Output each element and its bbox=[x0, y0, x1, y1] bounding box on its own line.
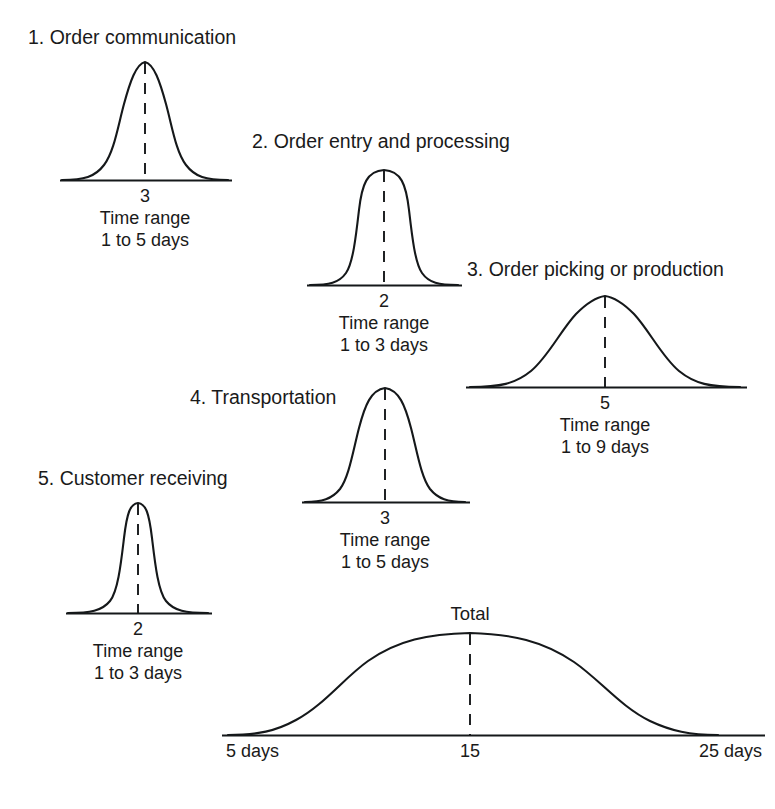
diagram-background bbox=[0, 0, 775, 809]
order-cycle-time-diagram: 1. Order communication 3 Time range 1 to… bbox=[0, 0, 775, 809]
stage-1-caption-line-1: Time range bbox=[100, 208, 190, 228]
stage-5-caption-line-1: Time range bbox=[93, 641, 183, 661]
stage-3-caption-line-2: 1 to 9 days bbox=[561, 437, 649, 457]
stage-4-caption-line-2: 1 to 5 days bbox=[341, 552, 429, 572]
stage-1-title: 1. Order communication bbox=[28, 26, 236, 48]
stage-1-caption-line-2: 1 to 5 days bbox=[101, 230, 189, 250]
stage-5-mean-label: 2 bbox=[133, 619, 143, 639]
stage-4-caption-line-1: Time range bbox=[340, 530, 430, 550]
total-axis-left-label: 5 days bbox=[226, 741, 279, 761]
stage-3-caption-line-1: Time range bbox=[560, 415, 650, 435]
stage-1-mean-label: 3 bbox=[140, 186, 150, 206]
stage-2-mean-label: 2 bbox=[379, 291, 389, 311]
stage-5-title: 5. Customer receiving bbox=[38, 467, 228, 489]
stage-2-title: 2. Order entry and processing bbox=[252, 130, 510, 152]
stage-2-caption-line-2: 1 to 3 days bbox=[340, 335, 428, 355]
stage-3-title: 3. Order picking or production bbox=[467, 258, 724, 280]
stage-2-caption-line-1: Time range bbox=[339, 313, 429, 333]
total-axis-right-label: 25 days bbox=[699, 741, 762, 761]
stage-4-title: 4. Transportation bbox=[190, 386, 336, 408]
stage-5-caption-line-2: 1 to 3 days bbox=[94, 663, 182, 683]
total-axis-center-label: 15 bbox=[460, 741, 480, 761]
total-title: Total bbox=[450, 603, 489, 624]
stage-4-mean-label: 3 bbox=[380, 508, 390, 528]
stage-3-mean-label: 5 bbox=[600, 393, 610, 413]
